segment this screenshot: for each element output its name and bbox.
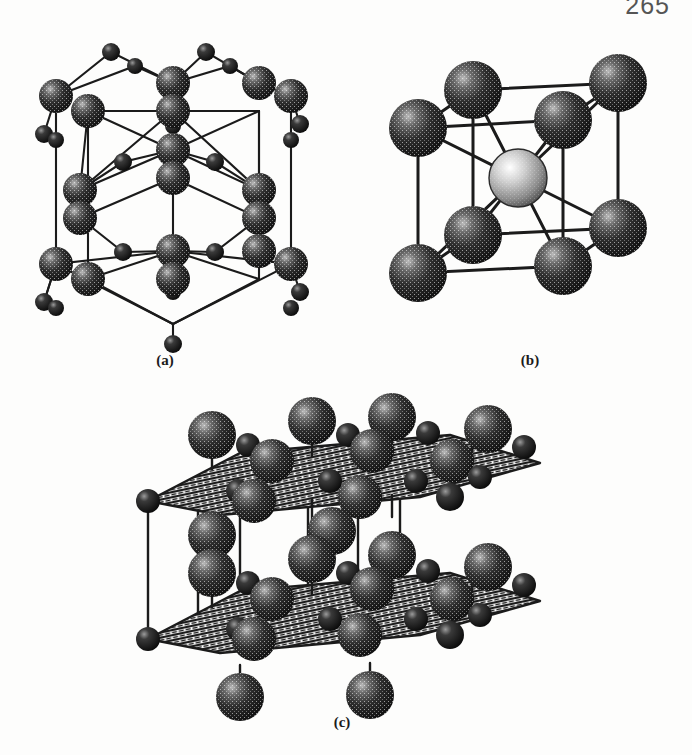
corner-atom <box>534 237 592 295</box>
corner-atom <box>589 199 647 257</box>
crystal-structure-a-svg <box>10 14 340 354</box>
caption-c: (c) <box>302 714 382 731</box>
corner-atom <box>389 99 447 157</box>
caption-b: (b) <box>490 352 570 369</box>
figure-panel-a <box>10 14 340 354</box>
corner-atom <box>444 206 502 264</box>
caption-a: (a) <box>125 352 205 369</box>
center-atom-b <box>489 149 547 207</box>
corner-atom <box>589 54 647 112</box>
figure-panel-c <box>120 405 580 710</box>
crystal-structure-b-svg <box>378 78 678 338</box>
page-number: 265 <box>625 0 670 20</box>
corner-atom <box>534 91 592 149</box>
figure-panel-b <box>378 78 678 338</box>
corner-atom <box>444 61 502 119</box>
corner-atom <box>389 244 447 302</box>
crystal-structure-c-svg <box>120 405 580 710</box>
